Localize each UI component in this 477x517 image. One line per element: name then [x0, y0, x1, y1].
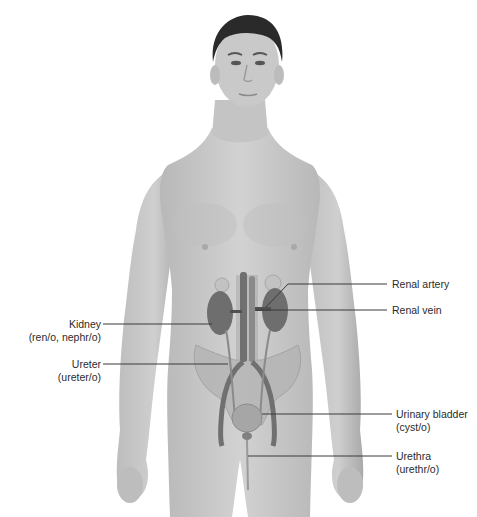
left-kidney	[207, 291, 233, 335]
left-eye	[231, 61, 241, 65]
label-renal-artery: Renal artery	[392, 278, 449, 291]
right-ear	[274, 65, 284, 85]
prostate	[242, 432, 252, 440]
vena-cava	[249, 276, 255, 362]
label-kidney-name: Kidney	[69, 318, 101, 330]
label-bladder-name: Urinary bladder	[396, 408, 468, 420]
right-nipple	[291, 244, 297, 250]
label-urethra: Urethra (urethr/o)	[396, 450, 439, 476]
label-bladder-form: (cyst/o)	[396, 421, 468, 434]
label-ureter: Ureter (ureter/o)	[58, 358, 101, 384]
renal-artery-vessel	[230, 310, 242, 313]
left-ear	[210, 65, 220, 85]
left-hand	[117, 467, 143, 503]
label-renal-vein-name: Renal vein	[392, 304, 442, 316]
label-renal-vein: Renal vein	[392, 304, 442, 317]
label-kidney-form: (ren/o, nephr/o)	[29, 331, 101, 344]
label-renal-artery-name: Renal artery	[392, 278, 449, 290]
left-nipple	[202, 244, 208, 250]
label-ureter-form: (ureter/o)	[58, 371, 101, 384]
bladder	[232, 404, 262, 432]
anatomy-figure	[0, 0, 477, 517]
label-kidney: Kidney (ren/o, nephr/o)	[29, 318, 101, 344]
aorta	[240, 272, 247, 362]
body	[117, 15, 364, 517]
label-urethra-name: Urethra	[396, 450, 431, 462]
right-hand	[337, 467, 363, 503]
neck	[212, 100, 268, 143]
urethra-path	[247, 440, 248, 490]
right-eye	[255, 61, 265, 65]
label-urinary-bladder: Urinary bladder (cyst/o)	[396, 408, 468, 434]
label-urethra-form: (urethr/o)	[396, 463, 439, 476]
label-ureter-name: Ureter	[72, 358, 101, 370]
